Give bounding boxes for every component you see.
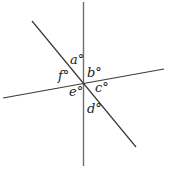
- diagram-svg: a° b° c° d° e° f°: [0, 0, 174, 177]
- angle-d-label: d°: [87, 101, 102, 116]
- angle-a-label: a°: [70, 52, 84, 67]
- angle-c-label: c°: [95, 80, 109, 95]
- angle-e-label: e°: [69, 84, 83, 99]
- angle-f-label: f°: [57, 68, 69, 83]
- angle-b-label: b°: [87, 65, 102, 80]
- angles-diagram: a° b° c° d° e° f°: [0, 0, 174, 177]
